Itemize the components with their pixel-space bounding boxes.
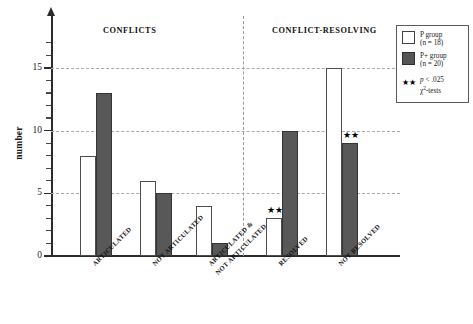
bar xyxy=(140,181,156,256)
legend-label-p-plus-group: P+ group (n = 20) xyxy=(420,52,447,69)
bar xyxy=(266,218,282,256)
bar-chart-figure: 051015 number CONFLICTS CONFLICT-RESOLVI… xyxy=(0,0,473,324)
bar xyxy=(326,68,342,256)
legend-entry-significance: ★★ p < .025 χ2-tests xyxy=(402,76,444,96)
y-tick-label-15: 15 xyxy=(0,63,42,73)
legend-label-p-plus-group-name: P+ group xyxy=(420,52,447,60)
legend-label-p-plus-group-n: (n = 20) xyxy=(420,60,447,68)
significance-p-value: p < .025 xyxy=(420,76,444,84)
legend: P group (n = 18) P+ group (n = 20) ★★ p … xyxy=(396,25,469,103)
y-axis-title: number xyxy=(14,108,24,178)
bar xyxy=(282,131,298,256)
significance-star-marker: ★★ xyxy=(267,206,282,215)
bar xyxy=(96,93,112,256)
legend-swatch-light xyxy=(402,31,415,44)
legend-swatch-dark xyxy=(402,52,415,65)
legend-label-p-group-name: P group xyxy=(420,31,442,39)
significance-star-marker: ★★ xyxy=(343,131,358,140)
legend-label-p-group: P group (n = 18) xyxy=(420,31,443,48)
bar xyxy=(342,143,358,256)
bar xyxy=(80,156,96,256)
legend-label-p-group-n: (n = 18) xyxy=(420,39,443,47)
legend-entry-p-group: P group (n = 18) xyxy=(402,31,443,48)
y-tick-label-5: 5 xyxy=(0,188,42,198)
legend-entry-p-plus-group: P+ group (n = 20) xyxy=(402,52,447,69)
legend-label-significance: p < .025 χ2-tests xyxy=(420,76,444,96)
y-tick-label-0: 0 xyxy=(0,251,42,261)
significance-test-name: χ2-tests xyxy=(420,84,444,96)
double-star-icon: ★★ xyxy=(402,76,415,89)
